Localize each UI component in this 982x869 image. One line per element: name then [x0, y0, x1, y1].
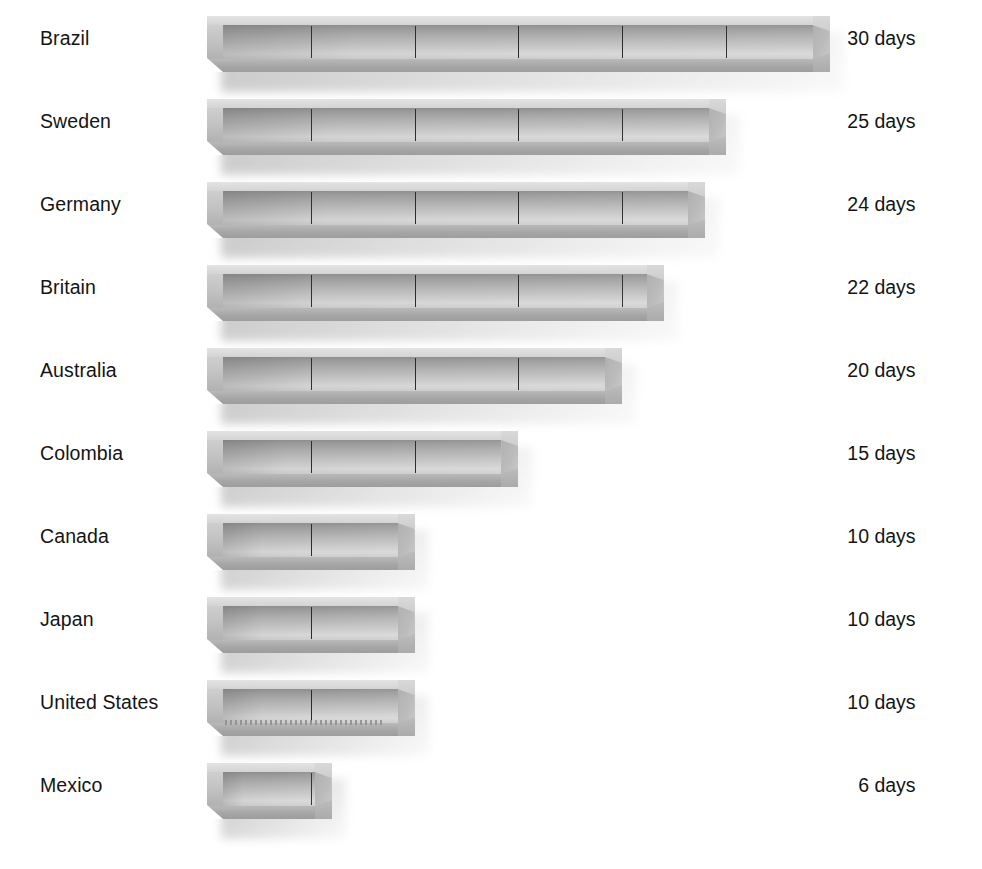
bar [207, 16, 830, 78]
category-label: Japan [40, 607, 210, 631]
value-unit: days [874, 276, 915, 298]
bar-body [207, 182, 705, 238]
value-label: 15 days [838, 441, 948, 465]
bar-body [207, 16, 830, 72]
segment-divider [311, 524, 312, 556]
bar-body [207, 514, 415, 570]
bar-inner-channel [223, 357, 605, 391]
chart-row: Mexico6 days [0, 755, 982, 838]
bar-end-cap [398, 680, 415, 736]
segment-divider [518, 109, 519, 141]
value-number: 15 [838, 441, 869, 465]
chart-row: Germany24 days [0, 174, 982, 257]
bar-end-cap [398, 597, 415, 653]
bar-end-cap-face [501, 440, 518, 474]
bar-end-cap [688, 182, 705, 238]
bar [207, 99, 726, 161]
bar-bottom-bevel [207, 640, 415, 653]
chart-row: Australia20 days [0, 340, 982, 423]
segment-divider [415, 441, 416, 473]
bar-bottom-bevel [207, 806, 332, 819]
value-unit: days [874, 193, 915, 215]
value-unit: days [874, 27, 915, 49]
bar-end-cap-face [605, 357, 622, 391]
segment-divider [415, 192, 416, 224]
value-unit: days [874, 608, 915, 630]
value-label: 10 days [838, 524, 948, 548]
category-label: Canada [40, 524, 210, 548]
bar-body [207, 348, 622, 404]
value-number: 20 [838, 358, 869, 382]
segment-divider [311, 358, 312, 390]
value-number: 10 [838, 607, 869, 631]
bar-bottom-bevel [207, 557, 415, 570]
chart-row: Colombia15 days [0, 423, 982, 506]
bar-end-cap-face [709, 108, 726, 142]
segment-divider [622, 109, 623, 141]
segment-divider [415, 26, 416, 58]
chart-row: Japan10 days [0, 589, 982, 672]
value-unit: days [874, 442, 915, 464]
bar-top-bevel [207, 514, 415, 523]
bar [207, 763, 332, 825]
bar [207, 182, 705, 244]
bar [207, 348, 622, 410]
bar [207, 597, 415, 659]
bar-inner-channel [223, 108, 709, 142]
bar-end-cap-face [398, 606, 415, 640]
bar-body [207, 763, 332, 819]
bar-top-bevel [207, 431, 518, 440]
value-number: 24 [838, 192, 869, 216]
bar [207, 680, 415, 742]
horizontal-bar-chart: Brazil30 daysSweden25 daysGermany24 days… [0, 0, 982, 869]
chart-row: United States10 days [0, 672, 982, 755]
bar-end-cap-face [398, 689, 415, 723]
bar-end-cap [501, 431, 518, 487]
bar-top-bevel [207, 16, 830, 25]
value-label: 6 days [838, 773, 948, 797]
bar [207, 514, 415, 576]
value-unit: days [874, 525, 915, 547]
bar-inner-channel [223, 689, 398, 723]
bar-inner-channel [223, 274, 647, 308]
segment-divider [311, 607, 312, 639]
bar-top-bevel [207, 265, 664, 274]
segment-divider [311, 773, 312, 805]
value-unit: days [874, 774, 915, 796]
value-label: 24 days [838, 192, 948, 216]
bar-end-cap [315, 763, 332, 819]
category-label: United States [40, 690, 210, 714]
value-number: 30 [838, 26, 869, 50]
bar-top-bevel [207, 680, 415, 689]
category-label: Mexico [40, 773, 210, 797]
bar-end-cap [398, 514, 415, 570]
segment-divider [518, 275, 519, 307]
bar-bottom-bevel [207, 474, 518, 487]
bar-end-cap-face [647, 274, 664, 308]
segment-divider [311, 690, 312, 722]
bar-end-cap [647, 265, 664, 321]
category-label: Colombia [40, 441, 210, 465]
bar-end-cap-face [315, 772, 332, 806]
category-label: Brazil [40, 26, 210, 50]
bar-bottom-bevel [207, 142, 726, 155]
value-unit: days [874, 691, 915, 713]
category-label: Sweden [40, 109, 210, 133]
segment-divider [518, 26, 519, 58]
category-label: Germany [40, 192, 210, 216]
bar-body [207, 99, 726, 155]
segment-divider [415, 358, 416, 390]
bar-inner-channel [223, 772, 315, 806]
bar-bottom-bevel [207, 225, 705, 238]
bar-bottom-bevel [207, 391, 622, 404]
chart-row: Sweden25 days [0, 91, 982, 174]
value-unit: days [874, 110, 915, 132]
chart-row: Canada10 days [0, 506, 982, 589]
bar-top-bevel [207, 597, 415, 606]
bar-end-cap [605, 348, 622, 404]
category-label: Britain [40, 275, 210, 299]
value-number: 10 [838, 690, 869, 714]
bar-end-cap-face [813, 25, 830, 59]
bar-inner-channel [223, 191, 688, 225]
value-label: 10 days [838, 690, 948, 714]
